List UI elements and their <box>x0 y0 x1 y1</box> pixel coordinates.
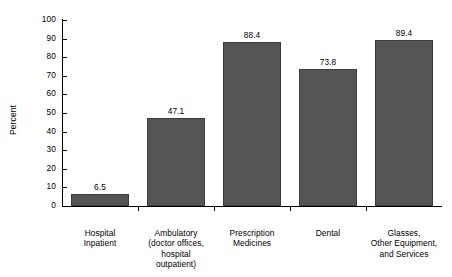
x-axis-tick-mark <box>138 207 139 211</box>
x-axis-category-label: Dental <box>290 228 366 238</box>
y-axis-tick-label: 20 <box>0 163 56 173</box>
y-axis-tick-mark <box>63 132 67 133</box>
y-axis-tick-label: 70 <box>0 70 56 80</box>
x-axis-category-label: HospitalInpatient <box>62 228 138 249</box>
y-axis-tick-mark <box>63 94 67 95</box>
bar-value-label: 47.1 <box>146 106 206 116</box>
x-axis-category-label: Ambulatory(doctor offices,hospitaloutpat… <box>138 228 214 270</box>
y-axis-tick-mark <box>63 76 67 77</box>
y-axis-tick-label: 40 <box>0 126 56 136</box>
bar <box>299 69 357 206</box>
y-axis-tick-mark <box>63 206 67 207</box>
x-axis-tick-mark <box>366 207 367 211</box>
y-axis-tick-mark <box>63 20 67 21</box>
y-axis-tick-mark <box>63 169 67 170</box>
x-axis-category-label: PrescriptionMedicines <box>214 228 290 249</box>
y-axis-tick-label: 100 <box>0 14 56 24</box>
bar-value-label: 88.4 <box>222 30 282 40</box>
x-axis-category-label: Glasses,Other Equipment,and Services <box>366 228 442 259</box>
bar <box>223 42 281 206</box>
bar-chart: Percent 0102030405060708090100 6.547.188… <box>0 0 452 277</box>
y-axis-tick-label: 30 <box>0 144 56 154</box>
y-axis-tick-mark <box>63 113 67 114</box>
x-axis-tick-mark <box>290 207 291 211</box>
y-axis-tick-label: 60 <box>0 88 56 98</box>
y-axis-tick-label: 10 <box>0 181 56 191</box>
y-axis-tick-mark <box>63 150 67 151</box>
y-axis-tick-mark <box>63 187 67 188</box>
bar <box>147 118 205 206</box>
y-axis-tick-label: 90 <box>0 33 56 43</box>
bar-value-label: 73.8 <box>298 57 358 67</box>
x-axis-tick-mark <box>214 207 215 211</box>
y-axis-tick-label: 80 <box>0 51 56 61</box>
y-axis-tick-label: 50 <box>0 107 56 117</box>
bar <box>375 40 433 206</box>
y-axis-tick-mark <box>63 39 67 40</box>
x-axis-line <box>62 206 442 207</box>
bar-value-label: 89.4 <box>374 28 434 38</box>
bar <box>71 194 129 206</box>
bar-value-label: 6.5 <box>70 182 130 192</box>
y-axis-tick-label: 0 <box>0 200 56 210</box>
y-axis-tick-mark <box>63 57 67 58</box>
